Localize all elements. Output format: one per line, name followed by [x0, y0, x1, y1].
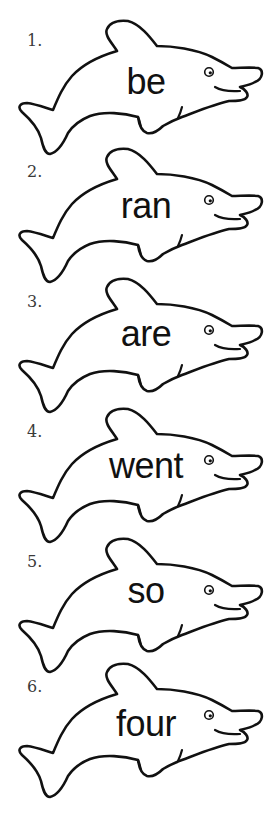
- sight-word: be: [95, 64, 197, 100]
- sight-word: so: [95, 573, 197, 609]
- sight-word: are: [95, 316, 197, 352]
- item-number: 2.: [27, 164, 42, 180]
- dolphin-item-4: 4. went: [0, 388, 276, 528]
- item-number: 6.: [27, 679, 42, 695]
- sight-word: went: [95, 448, 197, 484]
- sight-word: four: [95, 706, 197, 742]
- item-number: 5.: [27, 554, 42, 570]
- worksheet: 1. be 2. ran 3. are 4. went 5. so 6. fou…: [0, 0, 276, 813]
- sight-word: ran: [95, 188, 197, 224]
- item-number: 4.: [27, 424, 42, 440]
- item-number: 1.: [27, 33, 42, 49]
- item-number: 3.: [27, 294, 42, 310]
- dolphin-item-3: 3. are: [0, 258, 276, 398]
- dolphin-item-2: 2. ran: [0, 128, 276, 268]
- dolphin-item-1: 1. be: [0, 0, 276, 140]
- dolphin-item-6: 6. four: [0, 643, 276, 783]
- dolphin-item-5: 5. so: [0, 518, 276, 658]
